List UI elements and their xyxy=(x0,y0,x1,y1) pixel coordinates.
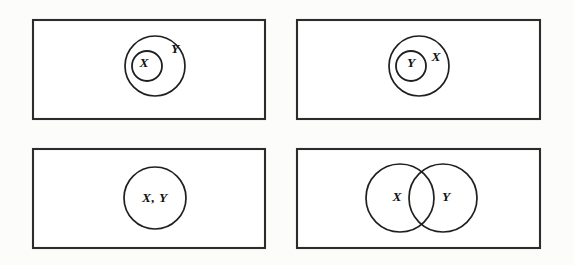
panel-top-right: YX xyxy=(297,20,540,119)
left-set-label: X xyxy=(391,189,402,204)
combined-set-label: X, Y xyxy=(141,190,169,205)
universe-rectangle xyxy=(297,149,540,248)
panel-bottom-right: XY xyxy=(297,149,540,248)
universe-rectangle xyxy=(33,20,265,119)
inner-set-label: X xyxy=(138,55,149,70)
set-relations-figure: XYYXX, YXY xyxy=(0,0,574,265)
figure-canvas: XYYXX, YXY xyxy=(0,0,574,265)
outer-set-label: X xyxy=(430,49,441,64)
panel-top-left: XY xyxy=(33,20,265,119)
universe-rectangle xyxy=(297,20,540,119)
panel-bottom-left: X, Y xyxy=(33,149,265,248)
